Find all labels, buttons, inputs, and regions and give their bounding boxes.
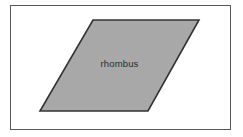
figure-canvas: rhombus bbox=[0, 0, 243, 137]
rhombus-label: rhombus bbox=[0, 58, 241, 69]
